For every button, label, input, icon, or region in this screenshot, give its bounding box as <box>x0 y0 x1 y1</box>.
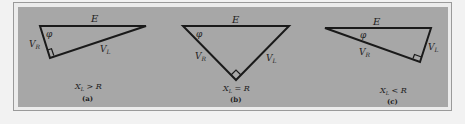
label-E-c: E <box>372 16 381 27</box>
triangle-b: E φ VR VL XL = R (b) <box>183 14 289 104</box>
label-VL-c: VL <box>428 42 439 53</box>
condition-a: XL > R <box>74 82 102 92</box>
label-VR-a: VR <box>29 39 41 50</box>
label-VR-c: VR <box>359 47 371 58</box>
label-VL-b: VL <box>266 53 277 64</box>
label-E-b: E <box>231 14 240 25</box>
label-phi-c: φ <box>360 30 367 40</box>
right-angle-marker-b <box>231 70 241 75</box>
right-angle-marker-c <box>413 55 422 59</box>
phasor-triangles-diagram: E φ VR VL XL > R (a) E φ VR VL XL = R (b… <box>0 0 465 124</box>
triangle-c: E φ VR VL XL < R (c) <box>325 16 439 106</box>
caption-a: (a) <box>82 94 93 103</box>
triangle-a-shape <box>40 26 146 58</box>
label-phi-a: φ <box>46 29 53 39</box>
label-phi-b: φ <box>196 29 203 39</box>
label-VL-a: VL <box>100 44 111 55</box>
caption-b: (b) <box>230 95 242 104</box>
condition-c: XL < R <box>379 86 407 96</box>
label-E-a: E <box>90 13 99 24</box>
label-VR-b: VR <box>195 51 207 62</box>
caption-c: (c) <box>387 97 398 106</box>
condition-b: XL = R <box>222 84 250 94</box>
triangle-c-shape <box>325 28 431 62</box>
triangle-a: E φ VR VL XL > R (a) <box>29 13 146 103</box>
